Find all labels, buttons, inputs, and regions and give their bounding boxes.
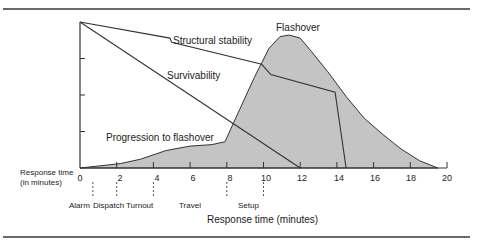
x-tick-6: 6	[190, 173, 195, 183]
x-tick-16: 16	[370, 173, 380, 183]
x-tick-2: 2	[117, 173, 122, 183]
fire-growth-polygon	[80, 35, 438, 168]
x-tick-0: 0	[77, 173, 82, 183]
side-axis-label-line2: (in minutes)	[20, 178, 73, 188]
phase-labels: Alarm Dispatch Turnout Travel Setup	[69, 201, 259, 210]
fire-growth-area	[80, 35, 438, 168]
x-tick-4: 4	[154, 173, 159, 183]
x-tick-20: 20	[442, 173, 452, 183]
x-tick-10: 10	[261, 173, 271, 183]
phase-turnout: Turnout	[126, 201, 154, 210]
side-axis-label: Response time (in minutes)	[20, 168, 73, 188]
phase-travel: Travel	[179, 201, 201, 210]
survivability-label: Survivability	[167, 70, 220, 81]
x-tick-labels: 0 2 4 6 8 10 12 14 16 18 20	[77, 173, 452, 183]
progression-label: Progression to flashover	[106, 132, 215, 143]
flashover-label: Flashover	[276, 22, 321, 33]
phase-alarm: Alarm	[69, 201, 90, 210]
x-axis-title: Response time (minutes)	[207, 214, 318, 225]
x-tick-12: 12	[297, 173, 307, 183]
structural-stability-label: Structural stability	[173, 35, 252, 46]
phase-setup: Setup	[238, 201, 259, 210]
phase-dispatch: Dispatch	[93, 201, 124, 210]
x-tick-14: 14	[334, 173, 344, 183]
fire-response-chart: Structural stability Flashover Survivabi…	[0, 0, 477, 247]
x-tick-8: 8	[227, 173, 232, 183]
side-axis-label-line1: Response time	[20, 168, 73, 178]
x-tick-18: 18	[406, 173, 416, 183]
phase-markers	[93, 182, 264, 197]
